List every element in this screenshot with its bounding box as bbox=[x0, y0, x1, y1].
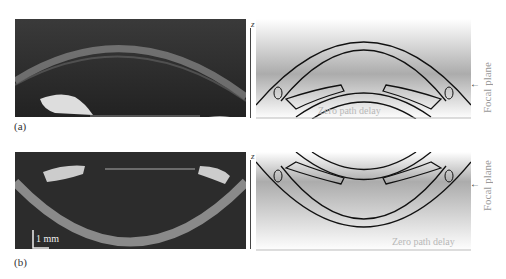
panel-label-b: (b) bbox=[14, 256, 27, 268]
eye-schematic-a-icon bbox=[256, 19, 471, 119]
focal-plane-label-b: Focal plane bbox=[481, 160, 493, 211]
oct-cornea-a-icon bbox=[15, 19, 246, 117]
z-label-a: z bbox=[251, 19, 255, 29]
focal-arrow-b-icon: ← bbox=[470, 178, 480, 189]
z-axis-b bbox=[250, 160, 251, 249]
zero-path-label-a: Zero path delay bbox=[318, 105, 381, 116]
focal-plane-label-a: Focal plane bbox=[481, 62, 493, 113]
oct-image-a bbox=[15, 19, 246, 117]
panel-label-a: (a) bbox=[14, 120, 26, 132]
scale-bar-label: 1 mm bbox=[36, 233, 59, 244]
z-axis-a bbox=[250, 28, 251, 118]
diagram-b: Zero path delay bbox=[256, 152, 471, 251]
z-label-b: z bbox=[251, 151, 255, 161]
focal-arrow-a-icon: ← bbox=[470, 78, 480, 89]
zero-path-label-b: Zero path delay bbox=[392, 236, 455, 247]
oct-image-b: 1 mm bbox=[15, 152, 246, 249]
diagram-a: Zero path delay bbox=[256, 19, 471, 119]
